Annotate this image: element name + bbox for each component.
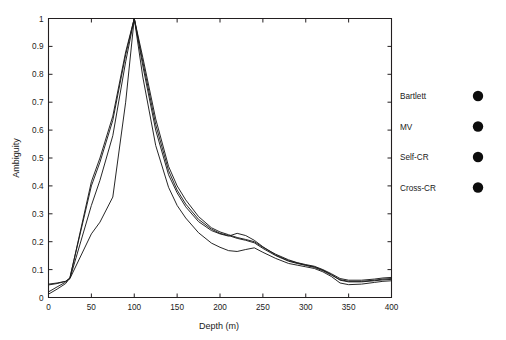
legend: BartlettMVSelf-CRCross-CR: [400, 91, 483, 193]
y-tick-label: 0.9: [32, 42, 44, 51]
y-tick-label: 0.3: [32, 210, 44, 219]
x-tick-label: 0: [46, 303, 51, 312]
ambiguity-vs-depth-chart: 050100150200250300350400 00.10.20.30.40.…: [0, 0, 506, 340]
legend-marker-icon: [473, 182, 483, 192]
series-line-self-cr: [49, 19, 392, 285]
y-axis-tick-labels: 00.10.20.30.40.50.60.70.80.91: [32, 15, 44, 303]
series-line-bartlett: [49, 19, 392, 295]
data-series-group: [49, 19, 392, 295]
legend-marker-icon: [473, 121, 483, 131]
x-tick-label: 50: [87, 303, 97, 312]
y-tick-label: 0.2: [32, 238, 44, 247]
figure-container: 050100150200250300350400 00.10.20.30.40.…: [0, 0, 506, 340]
legend-marker-icon: [473, 91, 483, 101]
x-tick-label: 100: [127, 303, 141, 312]
series-line-cross-cr: [49, 19, 392, 285]
series-line-mv: [49, 19, 392, 292]
y-tick-label: 0.7: [32, 98, 44, 107]
x-tick-label: 150: [170, 303, 184, 312]
x-axis-tick-labels: 050100150200250300350400: [46, 303, 399, 312]
legend-label-mv: MV: [400, 123, 413, 132]
legend-label-cross-cr: Cross-CR: [400, 184, 436, 193]
y-tick-label: 0.8: [32, 70, 44, 79]
x-tick-label: 200: [213, 303, 227, 312]
y-tick-label: 0: [39, 294, 44, 303]
y-tick-label: 0.4: [32, 182, 44, 191]
y-tick-label: 0.6: [32, 126, 44, 135]
x-tick-label: 350: [342, 303, 356, 312]
y-tick-label: 0.5: [32, 154, 44, 163]
legend-marker-icon: [473, 152, 483, 162]
x-tick-label: 250: [256, 303, 270, 312]
legend-label-bartlett: Bartlett: [400, 92, 427, 101]
x-tick-label: 300: [299, 303, 313, 312]
x-tick-label: 400: [385, 303, 399, 312]
y-tick-label: 1: [39, 15, 44, 24]
legend-label-self-cr: Self-CR: [400, 153, 429, 162]
y-tick-label: 0.1: [32, 266, 44, 275]
x-axis-title: Depth (m): [199, 321, 239, 331]
y-axis-title: Ambiguity: [11, 138, 21, 178]
